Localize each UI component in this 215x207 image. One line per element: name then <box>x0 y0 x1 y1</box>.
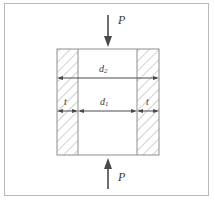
right-thickness-label: t <box>146 97 149 107</box>
left-wall-hatched-region <box>57 49 78 155</box>
outer-diameter-subscript: 2 <box>104 67 107 74</box>
d1-arrowhead-right <box>131 109 137 113</box>
figure-root: d2 d1 t t P P <box>0 0 215 207</box>
bottom-load-label: P <box>118 171 125 183</box>
outer-diameter-label: d2 <box>99 64 107 75</box>
arrow-up-icon <box>104 158 112 169</box>
inner-diameter-label: d1 <box>100 97 108 108</box>
inner-diameter-subscript: 1 <box>105 100 108 107</box>
arrow-down-icon <box>104 36 112 47</box>
top-load-label: P <box>118 14 125 26</box>
d1-arrowhead-left <box>78 109 84 113</box>
left-thickness-label: t <box>64 97 67 107</box>
